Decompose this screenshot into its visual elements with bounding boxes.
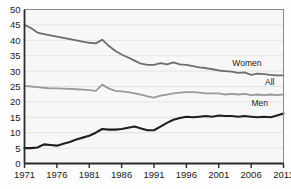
y-tick-label: 0: [15, 158, 20, 169]
y-tick-label: 40: [10, 35, 21, 46]
y-tick-label: 15: [10, 112, 21, 123]
y-tick-label: 5: [15, 143, 20, 154]
y-tick-label: 25: [10, 81, 21, 92]
x-tick-label: 2001: [208, 169, 229, 180]
y-tick-label: 45: [10, 19, 21, 30]
x-tick-label: 1986: [111, 169, 132, 180]
chart-figure: 05101520253035404550 1971197619811986199…: [0, 0, 291, 189]
x-axis-tick-labels: 197119761981198619911996200120062011: [14, 169, 291, 180]
series-label-all: All: [265, 77, 275, 87]
y-tick-label: 10: [10, 127, 21, 138]
x-tick-label: 1981: [79, 169, 100, 180]
x-tick-label: 1976: [46, 169, 67, 180]
line-chart: 05101520253035404550 1971197619811986199…: [0, 0, 291, 189]
y-tick-label: 50: [10, 4, 21, 15]
series-label-women: Women: [232, 58, 261, 68]
x-tick-label: 2011: [273, 169, 291, 180]
x-tick-label: 1991: [143, 169, 164, 180]
x-tick-label: 2006: [241, 169, 262, 180]
y-tick-label: 20: [10, 96, 21, 107]
y-tick-label: 35: [10, 50, 21, 61]
y-tick-label: 30: [10, 66, 21, 77]
x-tick-label: 1996: [176, 169, 197, 180]
series-label-men: Men: [251, 98, 268, 108]
x-tick-label: 1971: [14, 169, 35, 180]
